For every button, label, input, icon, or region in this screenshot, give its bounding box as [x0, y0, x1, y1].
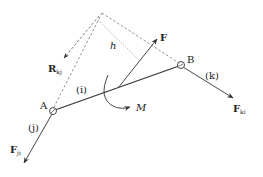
joint-b-icon	[178, 62, 185, 69]
force-fji-label: Fji	[10, 144, 21, 157]
force-fki-label: Fki	[233, 103, 246, 115]
member-i-label: (i)	[76, 84, 87, 95]
member-j-label: (j)	[28, 122, 39, 133]
point-a-label: A	[39, 100, 48, 111]
force-rkj-label: Rkj	[48, 63, 62, 76]
lever-arm-h-line	[98, 20, 139, 60]
distance-h-label: h	[110, 40, 116, 51]
force-arrow-rkj	[64, 16, 99, 58]
free-body-diagram: A B (i) (j) (k) h M F Rkj Fki Fji	[0, 0, 263, 177]
force-f-label: F	[160, 32, 167, 43]
member-k-label: (k)	[205, 70, 219, 81]
member-i-link	[55, 66, 179, 110]
moment-m-label: M	[135, 102, 147, 113]
point-b-label: B	[187, 54, 194, 65]
joint-a-icon	[50, 108, 57, 115]
construction-lines	[53, 13, 179, 109]
